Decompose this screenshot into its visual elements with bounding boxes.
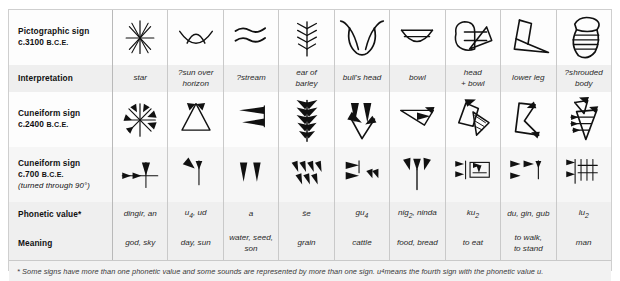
body-pictograph bbox=[557, 13, 611, 63]
cuneiform-2400-cell-barley bbox=[279, 92, 333, 147]
phonetic-cell-leg: du, gin, gub bbox=[501, 202, 555, 227]
leg-cuneiform-2400 bbox=[501, 96, 555, 144]
barley-cuneiform-2400 bbox=[279, 95, 333, 145]
meaning-cell-stream: water, seed,son bbox=[224, 227, 278, 260]
pictograph-cell-barley bbox=[279, 10, 333, 65]
interpretation-text: bowl bbox=[409, 73, 426, 84]
sign-column-head-bowl: head+ bowlku2to eat bbox=[446, 10, 501, 260]
row-label-line1: Interpretation bbox=[18, 73, 73, 83]
phonetic-cell-stream: a bbox=[224, 202, 278, 227]
meaning-cell-star: god, sky bbox=[113, 227, 167, 260]
cuneiform-700-cell-head-bowl bbox=[446, 147, 500, 202]
sign-column-leg: lower legdu, gin, gubto walk,to stand bbox=[501, 10, 556, 260]
meaning-cell-bowl: food, bread bbox=[390, 227, 444, 260]
head-bowl-cuneiform-2400 bbox=[446, 96, 500, 144]
sign-column-barley: ear ofbarleyšegrain bbox=[279, 10, 334, 260]
sign-column-body: ?shroudedbodylu2man bbox=[557, 10, 611, 260]
stream-pictograph bbox=[224, 19, 278, 57]
sun-cuneiform-2400 bbox=[168, 99, 222, 141]
leg-cuneiform-700 bbox=[501, 155, 555, 195]
interpretation-cell-barley: ear ofbarley bbox=[279, 65, 333, 92]
cuneiform-700-cell-body bbox=[557, 147, 611, 202]
leg-pictograph bbox=[501, 15, 555, 61]
row-label-interpretation: Interpretation bbox=[9, 65, 112, 92]
bowl-cuneiform-700 bbox=[390, 152, 444, 198]
cuneiform-700-cell-bowl bbox=[390, 147, 444, 202]
interpretation-cell-head-bowl: head+ bowl bbox=[446, 65, 500, 92]
row-label-line2-era: B.C.E. bbox=[46, 121, 68, 129]
interpretation-text: ?sun overhorizon bbox=[178, 68, 214, 89]
sign-column-stream: ?streamawater, seed,son bbox=[224, 10, 279, 260]
interpretation-text: star bbox=[133, 73, 147, 84]
barley-cuneiform-700 bbox=[279, 154, 333, 196]
stream-cuneiform-2400 bbox=[224, 100, 278, 140]
interpretation-text: lower leg bbox=[512, 73, 544, 84]
phonetic-cell-head-bowl: ku2 bbox=[446, 202, 500, 227]
phonetic-cell-sun: u4, ud bbox=[168, 202, 222, 227]
footnote-text-pre: * Some signs have more than one phonetic… bbox=[17, 267, 381, 276]
phonetic-text: du, gin, gub bbox=[507, 209, 549, 220]
pictograph-cell-bowl bbox=[390, 10, 444, 65]
cuneiform-700-cell-barley bbox=[279, 147, 333, 202]
row-label-cuneiform-2400: Cuneiform sign c.2400 B.C.E. bbox=[9, 92, 112, 147]
interpretation-text: ear ofbarley bbox=[296, 68, 318, 89]
meaning-text: grain bbox=[298, 238, 316, 249]
interpretation-cell-bull: bull's head bbox=[335, 65, 389, 92]
pictograph-cell-leg bbox=[501, 10, 555, 65]
interpretation-cell-leg: lower leg bbox=[501, 65, 555, 92]
meaning-cell-barley: grain bbox=[279, 227, 333, 260]
bowl-cuneiform-2400 bbox=[390, 100, 444, 140]
star-pictograph bbox=[113, 16, 167, 60]
sign-column-star: stardingir, angod, sky bbox=[113, 10, 168, 260]
phonetic-cell-body: lu2 bbox=[557, 202, 611, 227]
sun-pictograph bbox=[168, 18, 222, 58]
sign-column-bull: bull's headgu4cattle bbox=[335, 10, 390, 260]
meaning-cell-body: man bbox=[557, 227, 611, 260]
pictograph-cell-head-bowl bbox=[446, 10, 500, 65]
meaning-text: to eat bbox=[463, 238, 483, 249]
phonetic-cell-bowl: nig2, ninda bbox=[390, 202, 444, 227]
meaning-text: water, seed,son bbox=[229, 233, 273, 254]
head-bowl-pictograph bbox=[446, 15, 500, 61]
meaning-text: god, sky bbox=[125, 238, 155, 249]
phonetic-text: nig2, ninda bbox=[398, 208, 437, 220]
row-label-line2-pre: c.3100 bbox=[18, 37, 46, 47]
phonetic-text: lu2 bbox=[579, 208, 589, 220]
row-label-cuneiform-700: Cuneiform sign c.700 B.C.E. (turned thro… bbox=[9, 147, 112, 202]
row-label-column: Pictographic sign c.3100 B.C.E. Interpre… bbox=[9, 10, 113, 260]
bowl-pictograph bbox=[390, 19, 444, 57]
pictograph-cell-star bbox=[113, 10, 167, 65]
row-label-phonetic-value: Phonetic value* bbox=[9, 202, 112, 227]
cuneiform-700-cell-bull bbox=[335, 147, 389, 202]
phonetic-cell-barley: še bbox=[279, 202, 333, 227]
phonetic-cell-bull: gu4 bbox=[335, 202, 389, 227]
star-cuneiform-2400 bbox=[113, 97, 167, 143]
pictograph-cell-body bbox=[557, 10, 611, 65]
row-label-line2-pre: c.700 bbox=[18, 169, 42, 179]
row-label-line1: Cuneiform sign bbox=[18, 108, 80, 118]
row-label-line1: Meaning bbox=[18, 238, 52, 248]
bull-cuneiform-2400 bbox=[335, 96, 389, 144]
cuneiform-2400-cell-star bbox=[113, 92, 167, 147]
phonetic-text: še bbox=[302, 209, 311, 220]
table-grid: Pictographic sign c.3100 B.C.E. Interpre… bbox=[9, 10, 611, 260]
cuneiform-2400-cell-body bbox=[557, 92, 611, 147]
pictograph-cell-bull bbox=[335, 10, 389, 65]
barley-pictograph bbox=[279, 15, 333, 61]
phonetic-text: u4, ud bbox=[185, 208, 207, 220]
cuneiform-2400-cell-stream bbox=[224, 92, 278, 147]
cuneiform-2400-cell-sun bbox=[168, 92, 222, 147]
stream-cuneiform-700 bbox=[224, 155, 278, 195]
interpretation-cell-body: ?shroudedbody bbox=[557, 65, 611, 92]
meaning-text: man bbox=[576, 238, 592, 249]
head-bowl-cuneiform-700 bbox=[446, 155, 500, 195]
interpretation-text: head+ bowl bbox=[461, 68, 485, 89]
cuneiform-700-cell-leg bbox=[501, 147, 555, 202]
bull-cuneiform-700 bbox=[335, 155, 389, 195]
bull-pictograph bbox=[335, 14, 389, 62]
row-label-line2-pre: c.2400 bbox=[18, 119, 46, 129]
star-cuneiform-700 bbox=[113, 155, 167, 195]
cuneiform-2400-cell-bull bbox=[335, 92, 389, 147]
row-label-pictographic-sign: Pictographic sign c.3100 B.C.E. bbox=[9, 10, 112, 65]
